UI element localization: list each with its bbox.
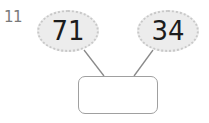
right-connector [134,50,153,76]
left-connector [84,50,104,76]
answer-box[interactable] [78,76,158,114]
part-oval-right: 34 [137,10,199,52]
question-number: 11 [4,8,22,26]
part-oval-left: 71 [37,10,99,52]
